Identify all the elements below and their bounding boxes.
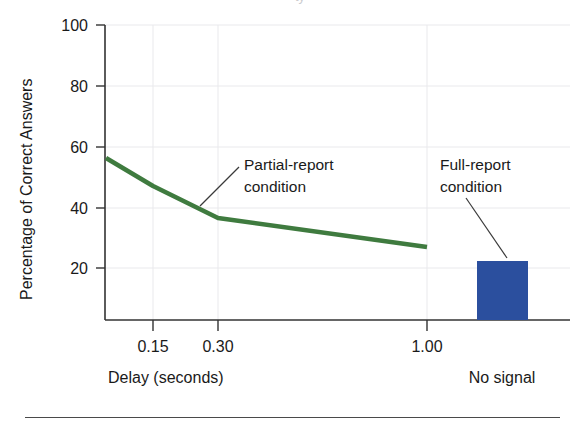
y-tick-labels: 100 80 60 40 20 (61, 17, 88, 277)
annotation-full-report: Full-report condition (440, 156, 511, 258)
y-tick-label-40: 40 (70, 200, 88, 217)
x-tick-label-100: 1.00 (411, 338, 442, 355)
y-tick-label-100: 100 (61, 17, 88, 34)
y-tick-label-60: 60 (70, 139, 88, 156)
y-axis-title: Percentage of Correct Answers (18, 79, 35, 300)
y-tick-label-80: 80 (70, 78, 88, 95)
x-tick-label-015: 0.15 (137, 338, 168, 355)
partial-report-label-line1: Partial-report (244, 156, 334, 173)
full-report-leader-line (466, 198, 507, 258)
full-report-label-line1: Full-report (440, 156, 511, 173)
full-report-label-line2: condition (440, 178, 502, 195)
x-tick-labels: 0.15 0.30 1.00 (137, 338, 442, 355)
clipped-top-caption: ty (120, 0, 480, 4)
annotation-partial-report: Partial-report condition (200, 156, 334, 206)
x-tick-label-030: 0.30 (202, 338, 233, 355)
x-axis-title: Delay (seconds) (108, 369, 224, 386)
full-report-bar (477, 261, 528, 320)
partial-report-label-line2: condition (244, 178, 306, 195)
figure-container: ty 1 (0, 0, 577, 426)
footer-divider (25, 417, 560, 418)
partial-report-leader-line (200, 167, 239, 206)
chart-svg: 100 80 60 40 20 Percentage of Correct An… (0, 0, 577, 426)
y-tick-label-20: 20 (70, 260, 88, 277)
no-signal-label: No signal (469, 369, 536, 386)
